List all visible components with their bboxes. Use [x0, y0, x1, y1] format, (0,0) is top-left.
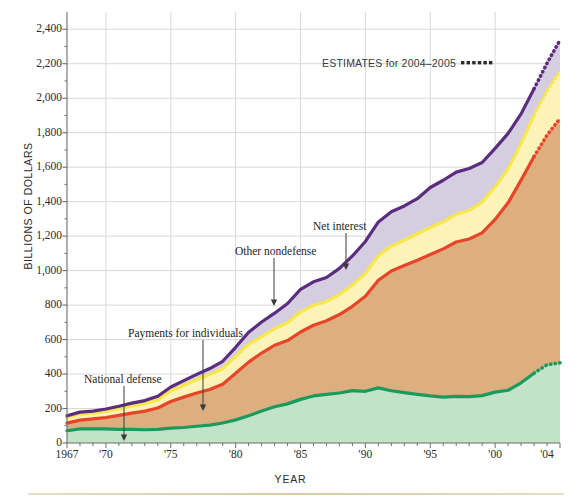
- bottom-rule: [28, 493, 564, 495]
- y-tick-label: 1,400: [2, 196, 62, 208]
- y-tick-label: 1,800: [2, 127, 62, 139]
- x-tick-label: '00: [488, 449, 502, 461]
- y-tick-label: 1,600: [2, 161, 62, 173]
- estimates-dotted-marker-icon: [461, 59, 495, 67]
- x-tick-label: '90: [359, 449, 373, 461]
- x-axis-title: YEAR: [0, 473, 581, 485]
- x-tick-label: '95: [423, 449, 437, 461]
- y-tick-label: 2,000: [2, 92, 62, 104]
- series-annotation-label: Payments for individuals: [128, 328, 243, 340]
- series-annotation-label: Other nondefense: [235, 246, 316, 258]
- y-tick-label: 1,000: [2, 265, 62, 277]
- x-tick-label: '85: [294, 449, 308, 461]
- y-tick-label: 1,200: [2, 230, 62, 242]
- x-tick-label: '70: [99, 449, 113, 461]
- y-tick-label: 600: [2, 334, 62, 346]
- y-tick-label: 800: [2, 299, 62, 311]
- x-tick-label: '75: [164, 449, 178, 461]
- chart-figure: BILLIONS OF DOLLARS YEAR 02004006008001,…: [0, 0, 581, 503]
- series-annotation-label: National defense: [84, 374, 162, 386]
- estimates-legend-text: ESTIMATES for 2004–2005: [322, 57, 456, 69]
- y-tick-label: 200: [2, 403, 62, 415]
- series-annotation-label: Net interest: [313, 221, 366, 233]
- y-tick-label: 0: [2, 437, 62, 449]
- y-tick-label: 2,200: [2, 58, 62, 70]
- y-tick-label: 400: [2, 368, 62, 380]
- estimates-legend: ESTIMATES for 2004–2005: [322, 57, 495, 69]
- x-tick-label: 1967: [56, 449, 79, 461]
- x-tick-label: '80: [229, 449, 243, 461]
- y-tick-label: 2,400: [2, 23, 62, 35]
- x-tick-label: '04: [540, 449, 554, 461]
